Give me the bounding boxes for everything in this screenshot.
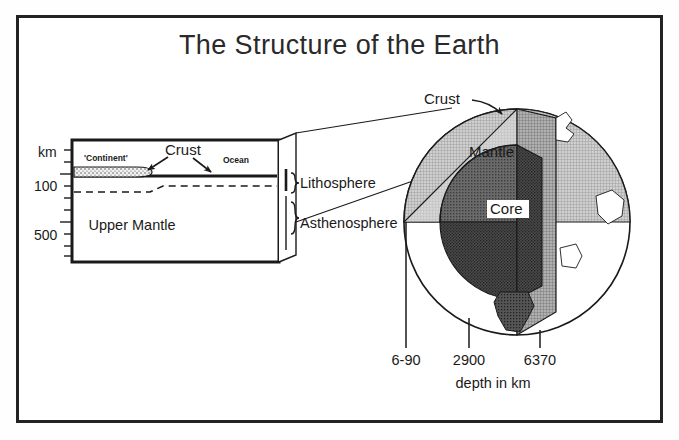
crust-label-panel: Crust [165,141,202,158]
core-flank [517,145,542,299]
lithosphere-label: Lithosphere [300,175,376,191]
ocean-label: Ocean [223,155,249,165]
earth-structure-diagram: km 100 500 'Continent' Ocean Crust Upper… [0,0,679,440]
earth-globe [404,109,630,335]
axis-unit-label: km [38,144,57,160]
asthenosphere-label: Asthenosphere [300,215,398,231]
cross-section-panel: km 100 500 'Continent' Ocean Crust Upper… [34,133,296,262]
depth-scale-labels: 6-90 2900 6370 depth in km [391,352,556,391]
continental-crust [74,167,152,177]
globe-core-label: Core [490,200,523,217]
depth-mark-2: 6370 [524,352,556,368]
axis-tick-500: 500 [34,227,58,243]
depth-axis [60,150,72,256]
depth-unit-caption: depth in km [456,375,531,391]
depth-mark-0: 6-90 [391,352,420,368]
core-label-group: Core [487,200,529,218]
figure-canvas: The Structure of the Earth [0,0,679,440]
continent-label: 'Continent' [84,153,128,163]
depth-mark-1: 2900 [453,352,485,368]
globe-crust-label: Crust [424,90,461,107]
upper-mantle-label: Upper Mantle [88,217,175,233]
axis-tick-100: 100 [34,178,58,194]
globe-mantle-label: Mantle [469,143,514,160]
